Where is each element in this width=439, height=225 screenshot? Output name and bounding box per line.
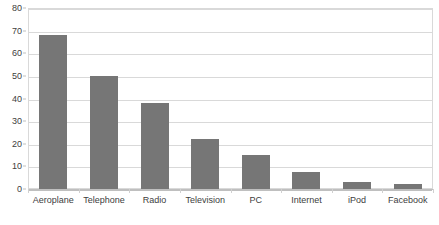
x-axis-tick-mark [28,189,29,193]
bar-slot [332,8,383,189]
y-axis-tick-mark [23,121,26,122]
bar-slot [28,8,79,189]
bar[interactable] [39,35,67,189]
bar[interactable] [90,76,118,189]
x-axis-tick-mark [231,189,232,193]
y-axis-tick-label: 70 [12,26,22,35]
y-axis-tick-mark [23,166,26,167]
bar-slot [79,8,130,189]
x-axis-tick-label: iPod [348,196,366,205]
x-axis-tick-label: Telephone [83,196,125,205]
x-axis-tick-mark [433,189,434,193]
bar[interactable] [191,139,219,189]
y-axis-tick-mark [23,8,26,9]
bar[interactable] [343,182,371,189]
x-axis-tick-label: PC [250,196,263,205]
x-axis-tick-label: Radio [143,196,167,205]
x-axis-tick-mark [79,189,80,193]
y-axis: 01020304050607080 [0,8,26,189]
y-axis-tick-label: 0 [17,185,22,194]
y-axis-tick-label: 50 [12,71,22,80]
y-axis-tick-label: 10 [12,162,22,171]
y-axis-tick-mark [23,53,26,54]
x-axis-tick-mark [332,189,333,193]
bar-slot [129,8,180,189]
bar[interactable] [141,103,169,189]
bar-slot [231,8,282,189]
y-axis-tick-mark [23,143,26,144]
x-axis-tick-mark [180,189,181,193]
y-axis-tick-label: 60 [12,49,22,58]
bar[interactable] [242,155,270,189]
x-axis-tick-mark [281,189,282,193]
bar-slot [382,8,433,189]
y-axis-tick-label: 20 [12,139,22,148]
x-axis-tick-label: Television [185,196,225,205]
y-axis-tick-mark [23,98,26,99]
y-axis-tick-label: 80 [12,4,22,13]
y-axis-tick-mark [23,30,26,31]
x-axis: AeroplaneTelephoneRadioTelevisionPCInter… [28,196,433,218]
bar-slot [180,8,231,189]
bar-chart: 01020304050607080 AeroplaneTelephoneRadi… [0,0,439,225]
x-axis-tick-label: Facebook [388,196,428,205]
y-axis-tick-label: 30 [12,117,22,126]
x-axis-tick-mark [129,189,130,193]
x-axis-tick-label: Internet [291,196,322,205]
y-axis-tick-mark [23,189,26,190]
bar-slot [281,8,332,189]
bars-container [28,8,433,189]
x-axis-tick-label: Aeroplane [33,196,74,205]
y-axis-tick-label: 40 [12,94,22,103]
bar[interactable] [292,172,320,189]
x-axis-tick-mark [382,189,383,193]
y-axis-tick-mark [23,75,26,76]
